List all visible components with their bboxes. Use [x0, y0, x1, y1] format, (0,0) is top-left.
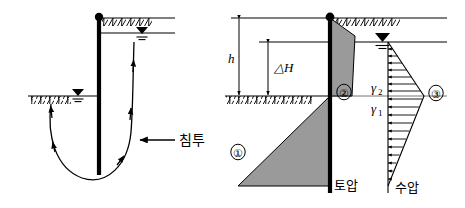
- marker-2-label: ②: [339, 87, 349, 99]
- engineering-diagram: 침투 h △H: [0, 0, 465, 208]
- dimension-delta-h-label: △H: [273, 60, 294, 75]
- dimension-h-label: h: [228, 51, 235, 66]
- gamma-1-subscript: 1: [378, 108, 383, 118]
- seepage-label: 침투: [179, 133, 205, 148]
- ground-hatch-icon: [332, 18, 400, 26]
- marker-1-label: ①: [233, 147, 243, 159]
- earth-pressure-label: 토압: [334, 178, 358, 193]
- ground-hatch-icon: [31, 96, 71, 104]
- gamma-2-symbol: γ: [371, 80, 377, 95]
- gamma-2-subscript: 2: [378, 87, 383, 97]
- wall-top-dot-icon: [326, 13, 335, 22]
- gamma-1-symbol: γ: [371, 101, 377, 116]
- ground-hatch-icon: [102, 18, 152, 26]
- marker-3-label: ③: [431, 88, 441, 100]
- wall-top-dot-icon: [95, 13, 103, 21]
- water-pressure-label: 수압: [395, 180, 419, 195]
- ground-hatch-icon: [226, 96, 312, 104]
